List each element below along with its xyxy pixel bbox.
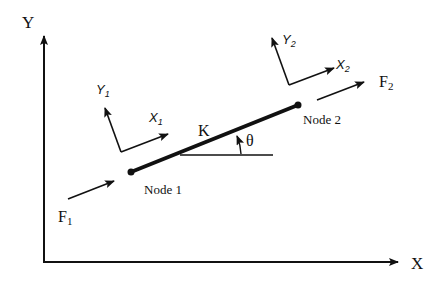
local-axes-node1: Y1 X1 [96, 82, 168, 152]
force-f2-arrow [317, 82, 364, 100]
node2-label: Node 2 [303, 112, 341, 127]
local-x2-label: X2 [335, 57, 350, 74]
local-x1-axis [121, 134, 168, 152]
node1-point [128, 169, 135, 176]
force-f1-arrow [68, 181, 114, 199]
stiffness-label: K [198, 122, 210, 139]
local-x2-axis [289, 68, 334, 85]
angle-label: θ [246, 132, 254, 149]
local-y2-label: Y2 [282, 32, 296, 49]
local-y1-axis [105, 108, 121, 152]
truss-element-diagram: Y X Y1 X1 Y2 X2 K θ Node 1 Node 2 [0, 0, 444, 284]
local-axes-node2: Y2 X2 [272, 32, 350, 85]
force-f2-label: F2 [379, 73, 393, 92]
truss-element: K θ Node 1 Node 2 [128, 102, 341, 198]
force-f1-label: F1 [58, 208, 72, 227]
node2-point [295, 102, 302, 109]
node1-label: Node 1 [144, 182, 182, 197]
global-axes: Y X [22, 13, 423, 273]
local-x1-label: X1 [148, 110, 163, 127]
global-y-label: Y [22, 13, 34, 32]
angle-arc [237, 136, 241, 154]
global-x-label: X [411, 254, 423, 273]
local-y1-label: Y1 [96, 82, 110, 99]
